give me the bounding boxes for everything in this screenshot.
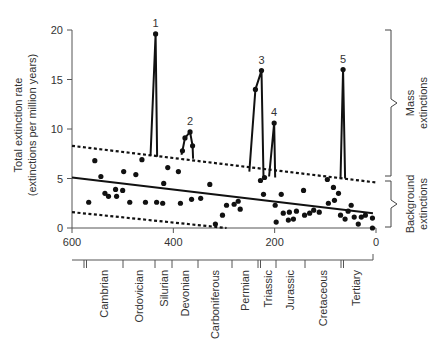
- period-label-devonian: Devonian: [179, 270, 191, 316]
- mass-extinction-4: [269, 123, 275, 177]
- data-point: [286, 217, 291, 222]
- data-point: [178, 201, 183, 206]
- data-point: [189, 197, 194, 202]
- extinction-braces: MassextinctionsBackgroundextinctions: [385, 30, 429, 233]
- background-points: [86, 157, 375, 231]
- mass-extinction-3: [249, 71, 263, 178]
- period-label-tertiary: Tertiary: [350, 270, 362, 307]
- peak-label: 4: [271, 106, 277, 118]
- data-point: [338, 213, 343, 218]
- data-point: [332, 198, 337, 203]
- y-tick-label: 20: [51, 24, 63, 36]
- data-point: [261, 192, 266, 197]
- data-point: [262, 175, 267, 180]
- data-point: [165, 165, 170, 170]
- data-point: [287, 210, 292, 215]
- data-point: [198, 196, 203, 201]
- data-point: [279, 192, 284, 197]
- y-tick-label: 5: [57, 173, 63, 185]
- background-extinctions-brace: [385, 181, 397, 227]
- data-point: [370, 225, 375, 230]
- x-tick-label: 0: [373, 236, 379, 248]
- mass-extinctions-label: Massextinctions: [404, 77, 429, 129]
- data-point: [352, 215, 357, 220]
- data-point: [160, 201, 165, 206]
- period-label-carboniferous: Carboniferous: [209, 270, 221, 340]
- x-tick-label: 600: [63, 236, 81, 248]
- data-point: [114, 194, 119, 199]
- period-label-cretaceous: Cretaceous: [317, 270, 329, 327]
- data-point: [349, 203, 354, 208]
- data-point: [370, 216, 375, 221]
- y-tick-label: 0: [57, 222, 63, 234]
- data-point: [121, 169, 126, 174]
- period-label-silurian: Silurian: [158, 270, 170, 307]
- peak-label: 1: [153, 17, 159, 29]
- peak-label: 5: [340, 53, 346, 65]
- data-point: [224, 203, 229, 208]
- x-tick-label: 400: [164, 236, 182, 248]
- data-point: [317, 210, 322, 215]
- y-axis-label-sub: (extinctions per million years): [26, 54, 38, 196]
- data-point: [86, 200, 91, 205]
- data-point: [238, 207, 243, 212]
- data-point: [273, 203, 278, 208]
- extinction-rate-chart: Total extinction rate (extinctions per m…: [0, 0, 436, 348]
- y-tick-label: 15: [51, 74, 63, 86]
- data-point: [342, 216, 347, 221]
- data-point: [133, 172, 138, 177]
- data-point: [336, 191, 341, 196]
- period-label-ordovician: Ordovician: [133, 270, 145, 323]
- data-point: [139, 157, 144, 162]
- period-label-permian: Permian: [239, 270, 251, 311]
- data-point: [274, 219, 279, 224]
- y-tick-label: 10: [51, 123, 63, 135]
- period-label-jurassic: Jurassic: [284, 270, 296, 311]
- peak-label: 2: [187, 115, 193, 127]
- background-extinctions-label: Backgroundextinctions: [404, 175, 429, 234]
- data-point: [331, 185, 336, 190]
- data-point: [143, 200, 148, 205]
- data-point: [294, 209, 299, 214]
- y-axis-label: Total extinction rate (extinctions per m…: [12, 54, 38, 196]
- mass-extinctions-brace: [385, 30, 397, 176]
- period-label-cambrian: Cambrian: [98, 270, 110, 318]
- data-point: [363, 213, 368, 218]
- x-tick-label: 200: [265, 236, 283, 248]
- data-point: [311, 208, 316, 213]
- peak-label: 3: [258, 54, 264, 66]
- geologic-period-timeline: CambrianOrdovicianSilurianDevonianCarbon…: [72, 254, 373, 339]
- data-point: [207, 182, 212, 187]
- mass-extinction-1: [151, 34, 158, 157]
- svg-text:extinctions: extinctions: [417, 77, 429, 129]
- data-point: [98, 174, 103, 179]
- mass-extinction-5: [341, 70, 346, 179]
- data-point: [236, 199, 241, 204]
- data-point: [154, 200, 159, 205]
- svg-text:Background: Background: [404, 175, 416, 234]
- y-axis-label-main: Total extinction rate: [12, 78, 24, 173]
- data-point: [302, 213, 307, 218]
- data-point: [120, 188, 125, 193]
- mass-extinction-peaks: 12345: [151, 17, 347, 179]
- lower-bound-line: [72, 212, 227, 228]
- data-point: [213, 221, 218, 226]
- data-point: [346, 209, 351, 214]
- data-point: [325, 177, 330, 182]
- upper-bound-line: [72, 146, 376, 183]
- data-point: [161, 181, 166, 186]
- svg-text:extinctions: extinctions: [417, 178, 429, 230]
- data-point: [291, 216, 296, 221]
- svg-text:Mass: Mass: [404, 89, 416, 116]
- data-point: [127, 200, 132, 205]
- data-point: [356, 221, 361, 226]
- data-point: [92, 158, 97, 163]
- data-point: [326, 201, 331, 206]
- period-label-triassic: Triassic: [262, 270, 274, 308]
- data-point: [281, 211, 286, 216]
- data-point: [220, 213, 225, 218]
- data-point: [301, 188, 306, 193]
- data-point: [106, 194, 111, 199]
- data-point: [113, 187, 118, 192]
- data-point: [176, 169, 181, 174]
